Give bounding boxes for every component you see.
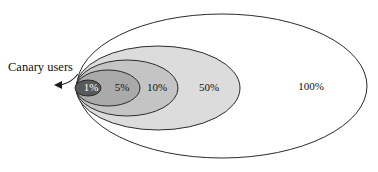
stage-label-5pct: 5% (115, 81, 130, 93)
diagram-canvas: Canary users 100%50%10%5%1% (0, 0, 378, 172)
stage-label-10pct: 10% (147, 81, 167, 93)
stage-label-1pct: 1% (84, 81, 99, 93)
canary-users-annotation: Canary users (8, 60, 78, 89)
annotation-label: Canary users (8, 60, 73, 74)
stage-label-50pct: 50% (199, 81, 219, 93)
canary-rollout-diagram: Canary users 100%50%10%5%1% (0, 0, 378, 172)
stage-label-100pct: 100% (298, 80, 324, 92)
annotation-arrowhead (54, 81, 62, 89)
annotation-leader-line (60, 74, 78, 85)
